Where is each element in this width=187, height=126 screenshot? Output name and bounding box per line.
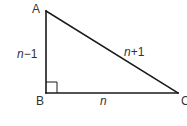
side-label-ac-suffix: +1 <box>131 45 145 59</box>
side-label-bc-variable: n <box>100 94 107 108</box>
vertex-label-c: C <box>181 94 187 108</box>
side-ac-hypotenuse <box>46 11 178 93</box>
side-label-ab-suffix: −1 <box>24 47 38 61</box>
side-label-bc: n <box>100 94 107 108</box>
right-angle-marker <box>46 82 57 93</box>
side-label-ac: n+1 <box>124 45 145 59</box>
side-label-ab: n−1 <box>17 47 38 61</box>
vertex-label-b: B <box>36 94 44 108</box>
vertex-label-a: A <box>32 2 40 16</box>
right-triangle-diagram: A B C n−1 n n+1 <box>0 0 187 126</box>
